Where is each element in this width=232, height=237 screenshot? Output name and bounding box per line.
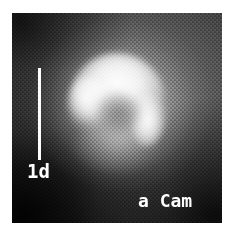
object-name-label: a Cam (138, 192, 192, 210)
astronomical-image: 1d a Cam (12, 13, 222, 223)
figure-container: 1d a Cam (0, 0, 232, 237)
scale-bar-label: 1d (27, 162, 50, 181)
scale-bar (38, 68, 41, 160)
